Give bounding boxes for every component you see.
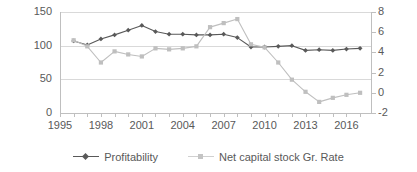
data-point-square [126,52,130,56]
data-point-diamond [344,47,349,52]
legend-label-net-capital-stock-gr-rate: Net capital stock Gr. Rate [219,151,344,163]
diamond-marker-icon [73,152,99,162]
data-point-square [358,91,362,95]
data-point-square [235,17,239,21]
data-point-square [263,45,267,49]
data-point-diamond [180,32,185,37]
series-profitability [71,23,362,53]
data-point-square [331,96,335,100]
data-point-square [181,46,185,50]
data-point-square [72,38,76,42]
data-point-diamond [126,28,131,33]
data-point-square [276,60,280,64]
data-point-square [99,60,103,64]
data-point-square [344,93,348,97]
data-point-square [208,25,212,29]
data-point-diamond [112,32,117,37]
data-point-diamond [330,48,335,53]
data-point-square [290,78,294,82]
data-point-diamond [153,29,158,34]
series-line [74,25,360,50]
data-point-square [303,90,307,94]
data-point-diamond [194,32,199,37]
data-point-diamond [139,23,144,28]
series-net-capital-stock-gr-rate [72,17,363,104]
data-point-diamond [303,48,308,53]
data-point-square [112,49,116,53]
data-point-square [140,54,144,58]
data-point-diamond [276,44,281,49]
data-point-diamond [99,37,104,42]
data-point-square [317,100,321,104]
data-point-square [249,42,253,46]
data-point-diamond [358,46,363,51]
chart-legend: Profitability Net capital stock Gr. Rate [0,148,417,166]
data-point-square [85,44,89,48]
data-point-diamond [317,47,322,52]
legend-item-profitability[interactable]: Profitability [73,151,158,163]
data-point-diamond [289,43,294,48]
chart-container: 050100150 -202468 1995199820012004200720… [0,0,417,172]
square-marker-icon [188,152,214,162]
legend-item-net-capital-stock-gr-rate[interactable]: Net capital stock Gr. Rate [188,151,344,163]
data-point-diamond [208,32,213,37]
data-point-diamond [167,32,172,37]
series-line [74,19,360,102]
series-layer [0,0,417,172]
data-point-square [194,44,198,48]
data-point-square [153,46,157,50]
legend-label-profitability: Profitability [104,151,158,163]
data-point-diamond [221,32,226,37]
data-point-square [222,21,226,25]
data-point-square [167,47,171,51]
